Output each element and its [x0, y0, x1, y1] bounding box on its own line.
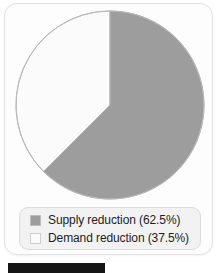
legend-item-demand-reduction[interactable]: Demand reduction (37.5%) — [30, 230, 200, 247]
caption-band — [8, 263, 105, 273]
pie-chart-card: Supply reduction (62.5%) Demand reductio… — [4, 3, 213, 255]
legend-swatch-supply-reduction-icon — [30, 215, 41, 226]
pie-chart-plot-area — [5, 4, 214, 202]
pie-chart-graphic — [15, 10, 205, 200]
legend-label-demand-reduction: Demand reduction (37.5%) — [48, 232, 189, 245]
legend-swatch-demand-reduction-icon — [30, 233, 41, 244]
chart-legend: Supply reduction (62.5%) Demand reductio… — [19, 207, 201, 250]
legend-item-supply-reduction[interactable]: Supply reduction (62.5%) — [30, 212, 200, 229]
legend-label-supply-reduction: Supply reduction (62.5%) — [48, 214, 180, 227]
